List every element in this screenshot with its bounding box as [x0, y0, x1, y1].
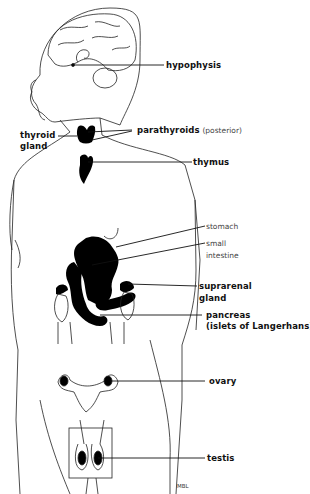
- label-thyroid-2: gland: [20, 141, 47, 151]
- label-parathyroids: parathyroids (posterior): [137, 125, 242, 136]
- label-small-intestine-1: small: [206, 239, 226, 249]
- brain: [48, 14, 136, 71]
- thymus-organ: [79, 155, 93, 184]
- suprarenal-left: [56, 284, 68, 294]
- parathyroids-note: (posterior): [202, 126, 242, 135]
- parathyroids-text: parathyroids: [137, 125, 200, 135]
- label-small-intestine-2: intestine: [206, 251, 239, 261]
- head-outline: [30, 8, 140, 125]
- label-suprarenal-1: suprarenal: [199, 281, 252, 291]
- kidney-left: [55, 294, 72, 344]
- suprarenal-right: [120, 281, 134, 292]
- label-suprarenal-2: gland: [199, 293, 226, 303]
- label-ovary: ovary: [209, 376, 236, 386]
- thyroid-organ: [77, 125, 95, 143]
- cerebellum: [93, 68, 117, 88]
- label-pancreas-2: (islets of Langerhans): [206, 321, 310, 331]
- label-thyroid-1: thyroid: [20, 130, 55, 140]
- ovary-left: [60, 376, 68, 386]
- endocrine-figure: [0, 0, 310, 494]
- label-hypophysis: hypophysis: [166, 60, 221, 70]
- label-thymus: thymus: [193, 157, 229, 167]
- artist-signature: MBL: [177, 481, 189, 491]
- testis-left: [78, 451, 86, 465]
- label-pancreas-1: pancreas: [206, 310, 250, 320]
- label-stomach: stomach: [206, 222, 238, 232]
- label-testis: testis: [207, 453, 235, 463]
- torso-outline: [11, 132, 196, 494]
